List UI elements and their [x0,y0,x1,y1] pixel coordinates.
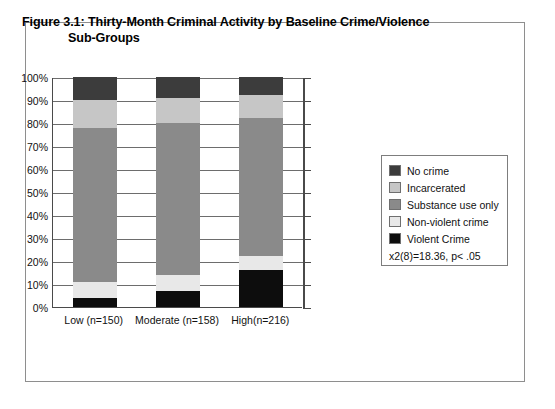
chart-plot-wrapper: 0%10%20%30%40%50%60%70%80%90%100% Low (n… [52,78,352,338]
legend-stat-annotation: x2(8)=18.36, p< .05 [389,250,501,262]
bar-segment[interactable] [156,291,200,307]
y-axis-tick-label: 40% [27,210,48,222]
legend-items: No crimeIncarceratedSubstance use onlyNo… [389,162,501,247]
legend-item[interactable]: Incarcerated [389,179,501,196]
bar-segment[interactable] [156,98,200,123]
legend-item[interactable]: No crime [389,162,501,179]
legend-swatch-icon [389,233,401,244]
plot-right-edge [303,78,305,308]
bar-segment[interactable] [156,77,200,98]
y-axis-tick-label: 20% [27,256,48,268]
y-axis-tick-labels: 0%10%20%30%40%50%60%70%80%90%100% [8,78,48,308]
bar-segment[interactable] [239,77,283,95]
plot-area [52,78,302,308]
legend-item-label: Incarcerated [407,182,465,194]
legend-item-label: Non-violent crime [407,216,489,228]
bar-segment[interactable] [156,123,200,275]
x-axis-tick-label: Moderate (n=158) [135,314,219,326]
bar-segment[interactable] [73,298,117,307]
y-axis-tick-label: 30% [27,233,48,245]
bar-segment[interactable] [239,95,283,118]
y-axis-tick-label: 50% [27,187,48,199]
y-axis-tick-label: 60% [27,164,48,176]
y-axis-tick-label: 100% [21,72,48,84]
legend-swatch-icon [389,182,401,193]
legend-swatch-icon [389,165,401,176]
legend-item[interactable]: Substance use only [389,196,501,213]
figure-title-line-2: Sub-Groups [22,30,452,46]
figure-title: Figure 3.1: Thirty-Month Criminal Activi… [22,14,452,46]
bar-segment[interactable] [239,256,283,270]
bar-segment[interactable] [156,275,200,291]
x-axis-tick-label: Low (n=150) [64,314,123,326]
bar-segment[interactable] [73,77,117,100]
legend-item-label: No crime [407,165,449,177]
legend-swatch-icon [389,216,401,227]
bar-segment[interactable] [239,118,283,256]
legend-swatch-icon [389,199,401,210]
y-axis-tick-label: 70% [27,141,48,153]
legend-item-label: Substance use only [407,199,499,211]
x-axis-tick-label: High(n=216) [231,314,289,326]
y-axis-tick-mark [303,308,311,309]
bar-stack[interactable] [156,77,200,307]
legend-item[interactable]: Violent Crime [389,230,501,247]
bar-segment[interactable] [73,128,117,282]
chart-legend: No crimeIncarceratedSubstance use onlyNo… [381,155,508,266]
bar-segment[interactable] [73,100,117,128]
y-axis-tick-label: 0% [33,302,48,314]
y-axis-tick-label: 80% [27,118,48,130]
figure-title-line-1: Figure 3.1: Thirty-Month Criminal Activi… [22,15,429,29]
y-axis-tick-label: 10% [27,279,48,291]
legend-item[interactable]: Non-violent crime [389,213,501,230]
bar-stack[interactable] [73,77,117,307]
bar-stack[interactable] [239,77,283,307]
bar-segment[interactable] [239,270,283,307]
y-axis-tick-label: 90% [27,95,48,107]
bar-segment[interactable] [73,282,117,298]
legend-item-label: Violent Crime [407,233,470,245]
